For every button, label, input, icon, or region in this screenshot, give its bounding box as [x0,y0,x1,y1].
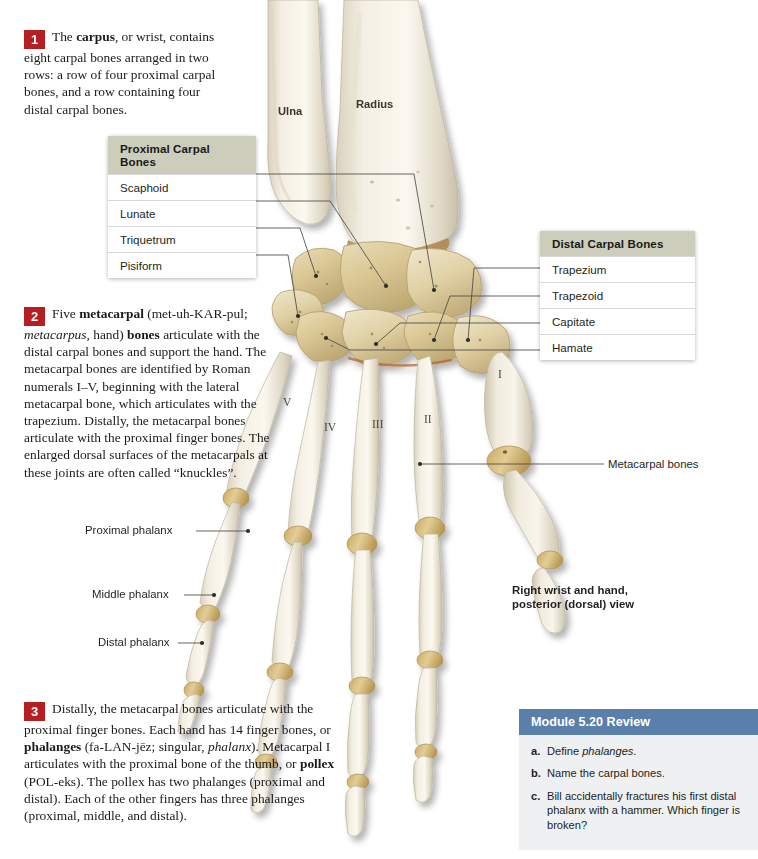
list-item: c. Bill accidentally fractures his first… [531,789,748,832]
module-review-header: Module 5.20 Review [519,709,758,735]
table-row: Scaphoid [108,174,256,200]
view-caption-line-1: Right wrist and hand, [512,583,692,597]
step-marker-2: 2 [24,307,45,326]
label-proximal-phalanx: Proximal phalanx [85,524,172,536]
table-row: Trapezoid [540,282,695,308]
table-row: Triquetrum [108,226,256,252]
label-distal-phalanx: Distal phalanx [98,636,170,648]
phalanges-middle [345,550,375,836]
distal-carpal-table-header: Distal Carpal Bones [540,231,695,256]
table-row: Capitate [540,308,695,334]
step-marker-3: 3 [24,702,45,721]
roman-numeral-IV: IV [324,421,336,433]
roman-numeral-III: III [372,418,384,430]
proximal-carpal-bones-table: Proximal Carpal Bones Scaphoid Lunate Tr… [108,136,256,278]
paragraph-1-text: The carpus, or wrist, contains eight car… [24,29,215,117]
review-item-letter: b. [531,766,547,780]
step-marker-1: 1 [24,30,45,49]
list-item: a. Define phalanges. [531,744,748,758]
review-item-text: Define phalanges. [547,744,748,758]
metacarpal-IV [284,360,330,546]
label-ulna: Ulna [278,105,302,117]
proximal-carpal-table-header: Proximal Carpal Bones [108,136,256,174]
paragraph-3: 3Distally, the metacarpal bones articula… [24,700,344,824]
roman-numeral-V: V [283,396,291,408]
label-radius: Radius [356,98,393,110]
table-row: Hamate [540,334,695,360]
carpal-bones-proximal [272,241,482,335]
metacarpal-II [414,356,445,539]
review-item-text: Name the carpal bones. [547,766,748,780]
table-row: Pisiform [108,252,256,278]
metacarpal-III [347,358,379,555]
metacarpal-I [484,352,532,476]
module-review-box: Module 5.20 Review a. Define phalanges. … [519,709,758,850]
review-item-letter: a. [531,744,547,758]
paragraph-3-text: Distally, the metacarpal bones articulat… [24,701,334,823]
label-middle-phalanx: Middle phalanx [92,588,169,600]
view-caption: Right wrist and hand, posterior (dorsal)… [512,583,692,611]
distal-carpal-bones-table: Distal Carpal Bones Trapezium Trapezoid … [540,231,695,360]
paragraph-2-text: Five metacarpal (met-uh-KAR-pul; metacar… [24,306,270,480]
table-row: Trapezium [540,256,695,282]
label-metacarpal-bones: Metacarpal bones [608,458,699,470]
table-row: Lunate [108,200,256,226]
view-caption-line-2: posterior (dorsal) view [512,597,692,611]
roman-numeral-I: I [498,368,502,380]
paragraph-2: 2Five metacarpal (met-uh-KAR-pul; metaca… [24,305,274,481]
review-item-text: Bill accidentally fractures his first di… [547,789,748,832]
phalanges-index [413,534,443,802]
review-item-letter: c. [531,789,547,832]
carpal-bones-distal [296,309,510,373]
roman-numeral-II: II [424,413,432,425]
module-review-list: a. Define phalanges. b. Name the carpal … [519,735,758,850]
paragraph-1: 1The carpus, or wrist, contains eight ca… [24,28,230,118]
radius-bone [336,0,458,261]
list-item: b. Name the carpal bones. [531,766,748,780]
